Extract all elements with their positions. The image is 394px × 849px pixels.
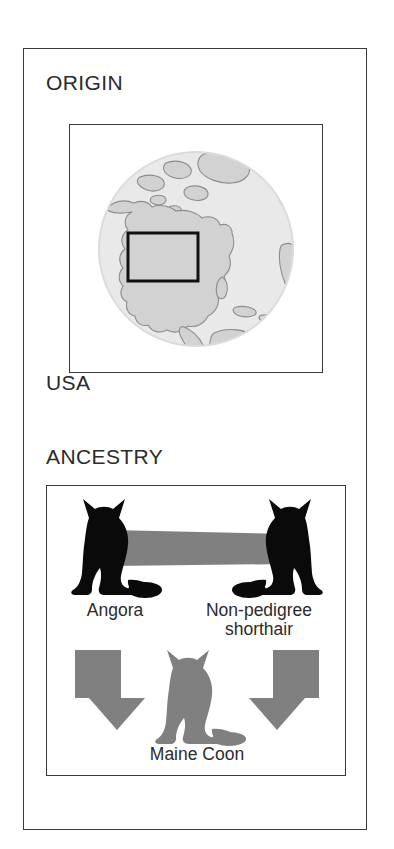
pairing-bar-icon (111, 530, 287, 566)
origin-caption: USA (46, 371, 90, 395)
parent-label-shorthair-line1: Non-pedigree (206, 600, 312, 620)
offspring-figure (61, 648, 333, 746)
ancestry-section-heading: ANCESTRY (46, 445, 163, 469)
parent-label-shorthair: Non-pedigreeshorthair (179, 601, 339, 639)
parent-breeds-figure (59, 494, 335, 598)
origin-section-heading: ORIGIN (46, 71, 123, 95)
offspring-label-maine-coon: Maine Coon (47, 744, 347, 765)
cat-silhouette-gray-offspring (155, 650, 246, 746)
ancestry-panel: Angora Non-pedigreeshorthair Maine Coon (46, 485, 346, 776)
parent-label-angora: Angora (55, 601, 175, 620)
breed-factbox: ORIGIN (23, 48, 367, 830)
parent-label-shorthair-line2: shorthair (225, 619, 293, 639)
origin-globe-panel (69, 124, 323, 373)
world-globe-map-icon (96, 149, 296, 349)
descent-arrow-left-icon (75, 650, 145, 730)
descent-arrow-right-icon (249, 650, 319, 730)
